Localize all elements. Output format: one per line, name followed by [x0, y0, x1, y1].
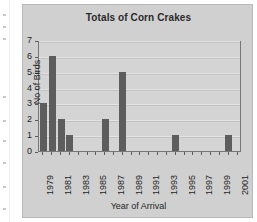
x-tick-mark — [184, 152, 185, 155]
x-tick-mark — [201, 152, 202, 155]
scan-speck — [3, 120, 6, 122]
x-tick-mark — [95, 152, 96, 155]
x-tick-mark — [210, 152, 211, 155]
x-tick-label: 1983 — [82, 175, 91, 195]
x-tick-label: 1979 — [46, 175, 55, 195]
x-tick-label: 1993 — [170, 175, 179, 195]
gridline — [39, 120, 240, 122]
x-tick-mark — [175, 152, 176, 155]
x-tick-label: 1981 — [64, 175, 73, 195]
x-tick-label: 1989 — [135, 175, 144, 195]
x-tick-label: 1985 — [99, 175, 108, 195]
page-left-margin — [0, 0, 22, 222]
x-tick-label: 1995 — [188, 175, 197, 195]
x-tick-mark — [104, 152, 105, 155]
x-tick-mark — [51, 152, 52, 155]
gridline — [39, 73, 240, 75]
page-edge-rule — [9, 0, 10, 222]
x-tick-mark — [192, 152, 193, 155]
scan-speck — [3, 38, 6, 40]
x-tick-mark — [60, 152, 61, 155]
bar — [58, 119, 65, 151]
scan-speck — [3, 162, 6, 164]
x-tick-mark — [228, 152, 229, 155]
x-tick-mark — [69, 152, 70, 155]
x-tick-mark — [122, 152, 123, 155]
bar — [49, 56, 56, 151]
x-tick-label: 1999 — [223, 175, 232, 195]
scan-speck — [3, 96, 6, 98]
y-axis-title: No of Birds — [32, 52, 42, 112]
x-axis-title: Year of Arrival — [23, 201, 254, 211]
x-tick-mark — [42, 152, 43, 155]
bar — [172, 135, 179, 151]
x-tick-mark — [113, 152, 114, 155]
x-tick-mark — [131, 152, 132, 155]
x-tick-label: 1997 — [205, 175, 214, 195]
x-tick-mark — [148, 152, 149, 155]
gridline — [39, 104, 240, 106]
scan-speck — [3, 140, 6, 142]
gridline — [39, 89, 240, 91]
scan-speck — [3, 26, 6, 28]
x-tick-label: 1991 — [152, 175, 161, 195]
gridline — [39, 41, 240, 43]
x-tick-mark — [219, 152, 220, 155]
x-tick-label: 1987 — [117, 175, 126, 195]
x-tick-label: 2001 — [241, 175, 250, 195]
x-tick-mark — [78, 152, 79, 155]
bar — [102, 119, 109, 151]
plot-area — [38, 41, 241, 152]
scan-speck — [3, 14, 6, 16]
x-tick-mark — [157, 152, 158, 155]
x-tick-mark — [166, 152, 167, 155]
bar — [225, 135, 232, 151]
scan-speck — [3, 186, 6, 188]
y-tick-mark — [35, 152, 38, 153]
chart-figure: Totals of Corn Crakes 012345671979198119… — [22, 4, 253, 218]
x-tick-mark — [237, 152, 238, 155]
x-tick-mark — [87, 152, 88, 155]
gridline — [39, 57, 240, 59]
bar — [119, 72, 126, 151]
bar — [66, 135, 73, 151]
x-tick-mark — [139, 152, 140, 155]
chart-title: Totals of Corn Crakes — [23, 12, 254, 23]
scan-speck — [3, 208, 6, 210]
